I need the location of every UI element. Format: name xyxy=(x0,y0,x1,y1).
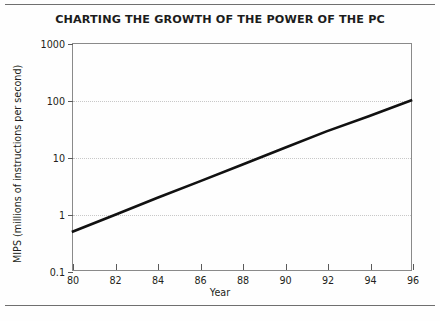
page-rule-bottom xyxy=(5,305,435,306)
x-tick-mark xyxy=(413,264,414,270)
x-tick-label: 82 xyxy=(109,275,121,286)
x-tick-label: 80 xyxy=(67,275,79,286)
y-tick-mark xyxy=(68,272,73,273)
series-line-pc-processing-power xyxy=(73,101,411,232)
x-tick-label: 88 xyxy=(237,275,249,286)
y-tick-label: 1000 xyxy=(41,39,65,50)
plot-area: 0.11101001000 808284868890929496 xyxy=(72,43,412,271)
x-tick-label: 90 xyxy=(279,275,291,286)
x-tick-label: 92 xyxy=(322,275,334,286)
y-axis-title: MIPS (millions of instructions per secon… xyxy=(12,23,26,263)
x-tick-label: 96 xyxy=(407,275,419,286)
chart-title: CHARTING THE GROWTH OF THE POWER OF THE … xyxy=(0,13,440,26)
chart-page: CHARTING THE GROWTH OF THE POWER OF THE … xyxy=(0,0,440,321)
x-tick-label: 86 xyxy=(194,275,206,286)
y-tick-label: 1 xyxy=(59,210,65,221)
x-tick-label: 94 xyxy=(364,275,376,286)
x-tick-label: 84 xyxy=(152,275,164,286)
y-tick-label: 100 xyxy=(47,96,65,107)
plot-inner: 0.11101001000 808284868890929496 xyxy=(73,44,411,270)
y-tick-label: 0.1 xyxy=(50,267,65,278)
x-axis-title: Year xyxy=(0,287,440,298)
page-rule-top xyxy=(5,4,435,5)
data-series-layer xyxy=(73,44,411,270)
y-tick-label: 10 xyxy=(53,153,65,164)
